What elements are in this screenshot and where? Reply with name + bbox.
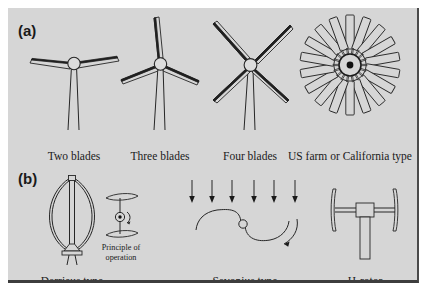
- wind-arrow: [229, 180, 235, 203]
- darrieus-caption: Darrieus type: [41, 275, 103, 280]
- darrieus-base-legs: [67, 255, 77, 265]
- four-blade-blade-lower-left-edge: [213, 69, 247, 101]
- darrieus-base-flare: [64, 244, 80, 251]
- wind-arrow: [209, 180, 215, 203]
- wind-arrow: [251, 180, 257, 203]
- figure-illustration: (a) Two blades: [8, 8, 417, 280]
- two-blade-tower-right: [77, 66, 80, 130]
- multiblade-rotor: US farm or California type: [288, 15, 412, 163]
- savonius-hub: [239, 220, 247, 228]
- savonius-blade-upper: [196, 210, 241, 230]
- three-blade-tower-right: [163, 66, 165, 130]
- part-a-label: (a): [18, 22, 36, 39]
- two-blade-caption: Two blades: [48, 150, 101, 162]
- darrieus-blade-left-inner: [52, 180, 71, 250]
- wind-arrow: [292, 180, 298, 203]
- wind-arrow: [271, 180, 277, 203]
- darrieus-top-cap: [69, 176, 76, 181]
- multiblade-hub-dot: [347, 62, 354, 69]
- darrieus-rotor: Darrieus type: [41, 176, 103, 281]
- savonius-caption: Savonius type: [213, 275, 278, 280]
- h-rotor-tower: [360, 217, 370, 259]
- two-blade-tower-left: [68, 66, 72, 130]
- three-blade-caption: Three blades: [130, 150, 190, 162]
- four-blade-tower-right: [253, 70, 255, 130]
- four-blade-tower-left: [244, 70, 248, 130]
- h-rotor-caption: H-rotor: [348, 275, 383, 280]
- h-rotor: H-rotor: [331, 189, 398, 280]
- two-blade-hub: [68, 57, 80, 69]
- figure-panel: (a) Two blades: [8, 8, 419, 283]
- four-blade-hub: [244, 59, 257, 72]
- principle-rotation-arc: [127, 212, 130, 223]
- four-blade-blade-upper-left-edge: [213, 23, 248, 61]
- savonius-rotation-arc: [284, 219, 297, 244]
- darrieus-blade-right-outer: [74, 178, 95, 251]
- savonius-blade-lower: [245, 221, 289, 241]
- principle-airfoil-top: [106, 194, 138, 201]
- wind-arrow: [189, 180, 195, 203]
- h-rotor-blade-left: [331, 189, 336, 231]
- multiblade-caption: US farm or California type: [288, 150, 412, 163]
- principle-caption-line2: operation: [106, 253, 137, 262]
- h-rotor-hub-box: [356, 203, 374, 217]
- h-rotor-arm-right: [374, 208, 395, 212]
- figure-root: (a) Two blades: [0, 0, 431, 295]
- three-blade-hub: [154, 58, 166, 70]
- multiblade-blades: [300, 15, 400, 115]
- three-blade-tower-left: [154, 66, 158, 130]
- principle-hub-dot: [118, 215, 121, 218]
- h-rotor-arm-left: [335, 208, 356, 212]
- four-blade-blade-lower-right-edge: [254, 69, 289, 101]
- four-blade-caption: Four blades: [223, 150, 278, 162]
- three-blade-turbine: Three blades: [121, 17, 199, 162]
- darrieus-base-plate: [62, 251, 82, 255]
- principle-airfoil-bottom: [106, 231, 138, 238]
- four-blade-turbine: Four blades: [213, 21, 293, 162]
- four-blade-blade-upper-right-edge: [255, 25, 291, 62]
- darrieus-blade-right-inner: [73, 180, 92, 250]
- part-b-label: (b): [18, 170, 37, 187]
- savonius-rotor: Savonius type: [189, 180, 298, 280]
- savonius-wind-arrows: [189, 180, 298, 203]
- principle-of-operation: Principle of operation: [102, 194, 141, 262]
- two-blade-turbine: Two blades: [30, 56, 119, 162]
- h-rotor-blade-right: [393, 189, 398, 231]
- darrieus-blade-left-outer: [49, 178, 70, 251]
- principle-caption-line1: Principle of: [102, 243, 141, 252]
